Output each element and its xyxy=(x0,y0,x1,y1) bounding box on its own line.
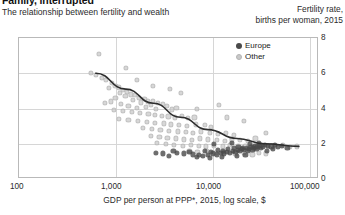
x-tick-100000: 100,000 xyxy=(290,182,320,191)
y-axis-title-line1: Fertility rate, xyxy=(297,4,343,14)
x-tick-10000: 10,000 xyxy=(196,182,221,191)
trend-line xyxy=(19,38,319,179)
chart-page: Family, interrupted The relationship bet… xyxy=(0,0,345,215)
legend-label-other: Other xyxy=(245,52,265,61)
chart-title: Family, interrupted xyxy=(2,0,94,6)
legend-item-other[interactable]: Other xyxy=(236,52,271,61)
x-tick-1000: 1,000 xyxy=(101,182,122,191)
legend-marker-europe xyxy=(236,43,242,49)
y-tick-8: 8 xyxy=(321,33,326,42)
y-axis-title-line2: births per woman, 2015 xyxy=(255,15,343,25)
x-axis-label-text: GDP per person at PPP*, 2015, log scale,… xyxy=(79,195,265,205)
y-axis-title: Fertility rate, births per woman, 2015 xyxy=(255,4,343,25)
y-tick-2: 2 xyxy=(321,138,326,147)
x-axis-label: GDP per person at PPP*, 2015, log scale,… xyxy=(0,195,345,205)
y-tick-6: 6 xyxy=(321,68,326,77)
chart-subtitle: The relationship between fertility and w… xyxy=(2,7,169,17)
x-tick-100: 100 xyxy=(10,182,24,191)
legend-marker-other xyxy=(236,54,242,60)
chart-legend: Europe Other xyxy=(236,41,271,61)
legend-label-europe: Europe xyxy=(245,41,271,50)
legend-item-europe[interactable]: Europe xyxy=(236,41,271,50)
y-tick-4: 4 xyxy=(321,103,326,112)
y-tick-0: 0 xyxy=(321,174,326,183)
plot-area xyxy=(18,37,318,178)
